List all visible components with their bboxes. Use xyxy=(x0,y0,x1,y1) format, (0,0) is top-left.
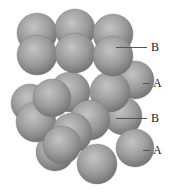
sphere-group xyxy=(11,9,154,184)
sphere xyxy=(77,144,117,184)
layer-label-a-bottom: A xyxy=(153,144,162,156)
sphere xyxy=(17,35,57,75)
leader-line-b-top xyxy=(116,47,147,48)
leader-line-a-top xyxy=(143,83,150,84)
hcp-diagram xyxy=(0,0,177,193)
sphere xyxy=(116,129,154,167)
leader-line-b-bottom xyxy=(116,118,147,119)
sphere-packing-illustration xyxy=(0,0,177,193)
leader-line-a-bottom xyxy=(143,150,150,151)
layer-label-b-top: B xyxy=(151,41,159,53)
sphere xyxy=(43,126,81,164)
sphere xyxy=(33,79,71,117)
layer-label-b-bottom: B xyxy=(151,112,159,124)
layer-label-a-top: A xyxy=(153,77,162,89)
sphere xyxy=(93,36,133,76)
sphere xyxy=(55,33,95,73)
